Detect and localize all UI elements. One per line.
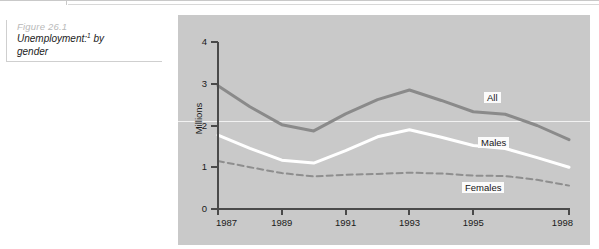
figure-caption: Figure 26.1 Unemployment:1 by gender (6, 20, 162, 62)
page-top-rule-secondary (68, 4, 599, 5)
series-label-males: Males (478, 137, 509, 148)
x-tick-label: 1991 (335, 218, 356, 228)
page-root: Figure 26.1 Unemployment:1 by gender 012… (0, 0, 599, 249)
x-tick-mark (472, 208, 474, 215)
x-tick-mark (408, 208, 410, 215)
chart-panel: 01234 198719891991199319951998 Millions … (178, 15, 590, 245)
series-line-females (218, 161, 569, 186)
y-tick-mark (211, 83, 218, 85)
y-tick-label: 4 (193, 37, 207, 47)
chart-series-layer (178, 15, 590, 245)
x-tick-label: 1995 (463, 218, 484, 228)
series-line-all (218, 86, 569, 140)
x-axis-line (217, 208, 569, 210)
y-tick-label: 0 (193, 204, 207, 214)
figure-title: Unemployment:1 by gender (17, 33, 137, 58)
x-tick-label: 1989 (271, 218, 292, 228)
x-tick-mark (345, 208, 347, 215)
figure-title-main: Unemployment: (17, 33, 87, 44)
x-tick-label: 1993 (399, 218, 420, 228)
series-line-males (218, 130, 569, 168)
y-tick-mark (211, 41, 218, 43)
series-label-females: Females (462, 182, 504, 193)
x-tick-mark (281, 208, 283, 215)
x-tick-mark (568, 208, 570, 215)
x-tick-label: 1998 (552, 218, 573, 228)
x-tick-label: 1987 (216, 218, 237, 228)
y-tick-mark (211, 166, 218, 168)
y-tick-label: 1 (193, 162, 207, 172)
x-tick-mark (217, 208, 219, 215)
chart-plot-area: 01234 198719891991199319951998 Millions … (178, 15, 590, 245)
series-label-all: All (484, 92, 501, 103)
y-axis-title: Millions (193, 89, 204, 149)
page-top-cell-divider (66, 0, 67, 5)
y-tick-mark (211, 125, 218, 127)
y-tick-label: 3 (193, 79, 207, 89)
